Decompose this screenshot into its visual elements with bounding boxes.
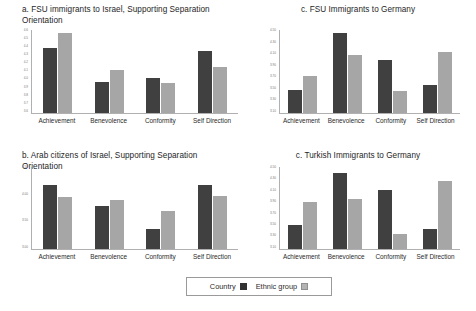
legend-item-ethnic-group: Ethnic group: [256, 282, 309, 291]
chart-title-c2: c. Turkish Immigrants to Germany: [244, 150, 472, 161]
x-tick-label: Self Direction: [186, 253, 238, 260]
bar-country: [95, 82, 109, 113]
bar-ethnic-group: [110, 70, 124, 113]
y-tick-label: 3.6: [24, 110, 28, 113]
y-tick-label: 4.6: [24, 29, 28, 32]
x-tick-label: Conformity: [369, 253, 414, 260]
bar-country: [95, 206, 109, 249]
bar-ethnic-group: [213, 67, 227, 113]
x-tick-label: Conformity: [135, 117, 187, 124]
bar-country: [288, 225, 302, 249]
x-axis-labels-b: AchievementBenevolenceConformitySelf Dir…: [31, 253, 238, 260]
y-tick-label: 3.7: [24, 102, 28, 105]
bar-ethnic-group: [438, 52, 452, 113]
bar-ethnic-group: [393, 91, 407, 113]
x-tick-label: Benevolence: [83, 117, 135, 124]
bar-country: [43, 185, 57, 249]
y-tick-label: 3.70: [270, 75, 276, 78]
bar-country: [378, 60, 392, 113]
y-tick-label: 4.50: [270, 166, 276, 169]
y-tick-label: 3.90: [270, 64, 276, 67]
bar-group: [187, 167, 239, 249]
y-tick-label: 3.90: [270, 200, 276, 203]
bar-ethnic-group: [348, 199, 362, 249]
bars-container-c2: [279, 167, 460, 250]
chart-panel-b: b. Arab citizens of Israel, Supporting S…: [8, 150, 240, 276]
y-tick-label: 4.10: [270, 52, 276, 55]
y-tick-label: 3.00: [22, 246, 28, 249]
y-tick-label: 4.2: [24, 61, 28, 64]
plot-area-c2: 4.504.304.103.903.703.503.303.10: [256, 167, 462, 250]
x-tick-label: Conformity: [369, 117, 414, 124]
x-tick-label: Benevolence: [83, 253, 135, 260]
bar-ethnic-group: [58, 33, 72, 114]
x-axis-labels-c1: AchievementBenevolenceConformitySelf Dir…: [279, 117, 458, 124]
bar-group: [415, 30, 460, 113]
bar-group: [135, 167, 187, 249]
y-tick-label: 3.50: [22, 219, 28, 222]
y-tick-label: 4.10: [270, 189, 276, 192]
y-tick-label: 4.30: [270, 177, 276, 180]
bar-ethnic-group: [110, 200, 124, 249]
bars-container-c1: [279, 30, 460, 114]
bar-ethnic-group: [303, 202, 317, 249]
y-tick-label: 4.4: [24, 45, 28, 48]
y-tick-label: 3.70: [270, 212, 276, 215]
bar-group: [84, 30, 136, 113]
bar-group: [325, 30, 370, 113]
chart-title-c1: c. FSU Immigrants to Germany: [244, 4, 472, 15]
x-tick-label: Benevolence: [324, 117, 369, 124]
bar-country: [333, 33, 347, 114]
y-tick-label: 3.30: [270, 98, 276, 101]
bar-country: [423, 85, 437, 113]
x-tick-label: Benevolence: [324, 253, 369, 260]
x-tick-label: Achievement: [31, 117, 83, 124]
bars-container-a: [31, 30, 238, 114]
x-tick-label: Conformity: [135, 253, 187, 260]
bar-country: [198, 185, 212, 249]
filled-light-square-icon: [301, 283, 308, 290]
y-tick-label: 3.50: [270, 223, 276, 226]
bar-group: [32, 30, 84, 113]
bar-group: [187, 30, 239, 113]
bar-ethnic-group: [58, 197, 72, 249]
chart-panel-c2: c. Turkish Immigrants to Germany 4.504.3…: [244, 150, 472, 276]
bar-country: [423, 229, 437, 250]
x-axis-labels-c2: AchievementBenevolenceConformitySelf Dir…: [279, 253, 458, 260]
chart-legend: Country Ethnic group: [186, 277, 332, 296]
y-tick-label: 4.0: [24, 77, 28, 80]
bar-group: [280, 167, 325, 249]
y-tick-label: 4.00: [22, 193, 28, 196]
y-tick-label: 3.10: [270, 246, 276, 249]
plot-area-c1: 4.504.304.103.903.703.503.303.10: [256, 30, 462, 114]
y-tick-label: 3.10: [270, 110, 276, 113]
legend-label-ethnic-group: Ethnic group: [256, 282, 298, 291]
bar-ethnic-group: [161, 211, 175, 249]
y-axis-labels-c1: 4.504.304.103.903.703.503.303.10: [256, 30, 278, 114]
bar-country: [198, 51, 212, 113]
y-axis-labels-b: 4.504.003.503.00: [8, 167, 30, 250]
y-axis-labels-c2: 4.504.304.103.903.703.503.303.10: [256, 167, 278, 250]
y-tick-label: 4.30: [270, 41, 276, 44]
bar-country: [43, 48, 57, 113]
x-tick-label: Achievement: [279, 253, 324, 260]
bars-container-b: [31, 167, 238, 250]
y-tick-label: 4.1: [24, 69, 28, 72]
bar-group: [280, 30, 325, 113]
x-axis-labels-a: AchievementBenevolenceConformitySelf Dir…: [31, 117, 238, 124]
y-tick-label: 4.5: [24, 37, 28, 40]
plot-area-a: 4.64.54.44.34.24.14.03.93.83.73.6: [8, 30, 240, 114]
chart-panel-a: a. FSU immigrants to Israel, Supporting …: [8, 4, 240, 150]
filled-dark-square-icon: [240, 283, 247, 290]
y-tick-label: 3.50: [270, 87, 276, 90]
bar-ethnic-group: [438, 181, 452, 249]
bar-country: [378, 190, 392, 249]
bar-ethnic-group: [213, 196, 227, 249]
y-tick-label: 3.9: [24, 86, 28, 89]
y-tick-label: 3.30: [270, 234, 276, 237]
chart-title-a: a. FSU immigrants to Israel, Supporting …: [8, 4, 240, 26]
bar-country: [146, 229, 160, 250]
x-tick-label: Self Direction: [186, 117, 238, 124]
bar-ethnic-group: [348, 55, 362, 113]
x-tick-label: Self Direction: [413, 253, 458, 260]
